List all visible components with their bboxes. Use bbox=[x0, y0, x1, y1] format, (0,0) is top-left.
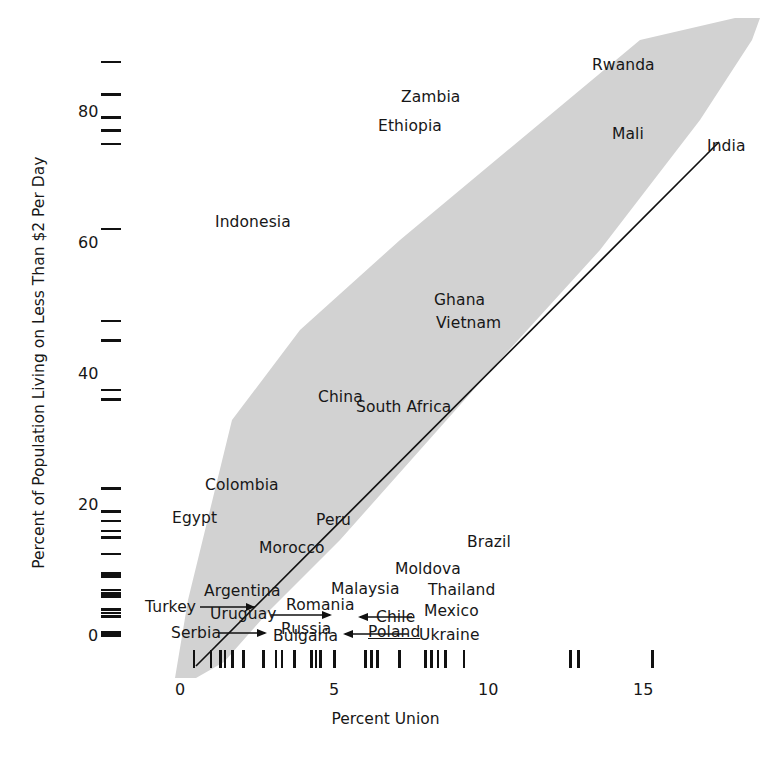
x-rug-tick bbox=[210, 650, 213, 668]
y-rug-tick bbox=[101, 93, 121, 96]
point-label-serbia: Serbia bbox=[171, 626, 221, 642]
x-rug-tick bbox=[231, 650, 234, 668]
y-rug-tick bbox=[101, 615, 121, 618]
x-rug-tick bbox=[315, 650, 318, 668]
y-axis-title: Percent of Population Living on Less Tha… bbox=[32, 123, 48, 603]
point-label-south-africa: South Africa bbox=[356, 400, 451, 416]
point-label-vietnam: Vietnam bbox=[436, 316, 501, 332]
y-rug-tick bbox=[101, 116, 121, 119]
x-rug-tick bbox=[219, 650, 222, 668]
point-label-argentina: Argentina bbox=[204, 584, 281, 600]
x-rug-tick bbox=[444, 650, 447, 668]
x-tick-label-5: 5 bbox=[329, 682, 339, 698]
y-tick-label-40: 40 bbox=[78, 366, 98, 382]
x-rug-tick bbox=[577, 650, 580, 668]
x-rug-tick bbox=[193, 650, 196, 668]
point-label-egypt: Egypt bbox=[172, 511, 217, 527]
point-label-zambia: Zambia bbox=[401, 90, 460, 106]
x-rug-tick bbox=[333, 650, 336, 668]
y-rug-tick bbox=[101, 520, 121, 523]
x-rug-tick bbox=[651, 650, 654, 668]
y-rug-tick bbox=[101, 608, 121, 611]
x-rug-tick bbox=[398, 650, 401, 668]
point-label-peru: Peru bbox=[316, 513, 351, 529]
point-label-moldova: Moldova bbox=[395, 562, 461, 578]
x-rug-tick bbox=[275, 650, 278, 668]
point-label-mali: Mali bbox=[612, 127, 644, 143]
x-rug-tick bbox=[242, 650, 245, 668]
x-rug-tick bbox=[463, 650, 466, 668]
x-rug-tick bbox=[293, 650, 296, 668]
plot-canvas bbox=[0, 0, 771, 758]
y-rug-tick bbox=[101, 228, 121, 231]
x-rug-tick bbox=[437, 650, 440, 668]
x-rug-tick bbox=[319, 650, 322, 668]
x-rug-tick bbox=[569, 650, 572, 668]
x-rug-tick bbox=[310, 650, 313, 668]
point-label-brazil: Brazil bbox=[467, 535, 511, 551]
y-tick-label-20: 20 bbox=[78, 497, 98, 513]
point-label-indonesia: Indonesia bbox=[215, 215, 291, 231]
y-rug-tick bbox=[101, 510, 121, 513]
point-label-colombia: Colombia bbox=[205, 478, 279, 494]
y-rug-tick bbox=[101, 589, 121, 592]
x-tick-label-15: 15 bbox=[633, 682, 653, 698]
y-rug-tick bbox=[101, 553, 121, 556]
y-rug-tick bbox=[101, 129, 121, 132]
x-rug-tick bbox=[370, 650, 373, 668]
y-tick-label-80: 80 bbox=[78, 104, 98, 120]
y-rug-tick bbox=[101, 592, 121, 595]
point-label-ghana: Ghana bbox=[434, 293, 485, 309]
x-rug-tick bbox=[281, 650, 284, 668]
point-label-ethiopia: Ethiopia bbox=[378, 119, 442, 135]
y-rug-tick bbox=[101, 536, 121, 539]
y-rug-tick bbox=[101, 575, 121, 578]
x-tick-label-10: 10 bbox=[478, 682, 498, 698]
x-rug-tick bbox=[262, 650, 265, 668]
x-rug-tick bbox=[224, 650, 227, 668]
y-tick-label-60: 60 bbox=[78, 235, 98, 251]
x-rug-tick bbox=[424, 650, 427, 668]
point-label-thailand: Thailand bbox=[428, 583, 495, 599]
x-axis-title: Percent Union bbox=[0, 712, 771, 728]
point-label-morocco: Morocco bbox=[259, 541, 325, 557]
x-rug-tick bbox=[430, 650, 433, 668]
y-rug-tick bbox=[101, 487, 121, 490]
x-tick-label-0: 0 bbox=[175, 682, 185, 698]
x-rug-tick bbox=[364, 650, 367, 668]
y-rug-tick bbox=[101, 595, 121, 598]
point-label-india: India bbox=[707, 139, 746, 155]
point-label-mexico: Mexico bbox=[424, 604, 479, 620]
scatter-plot-figure: Percent of Population Living on Less Tha… bbox=[0, 0, 771, 758]
confidence-band bbox=[175, 18, 760, 678]
x-rug-tick bbox=[376, 650, 379, 668]
y-rug-tick bbox=[101, 530, 121, 533]
y-rug-tick bbox=[101, 339, 121, 342]
point-label-turkey: Turkey bbox=[145, 600, 196, 616]
point-label-ukraine: Ukraine bbox=[419, 628, 480, 644]
point-label-uruguay: Uruguay bbox=[210, 607, 277, 623]
point-label-russia: Russia bbox=[281, 622, 331, 638]
y-rug-tick bbox=[101, 143, 121, 146]
y-rug-tick bbox=[101, 389, 121, 392]
y-rug-tick bbox=[101, 612, 121, 615]
point-label-romania: Romania bbox=[286, 598, 354, 614]
y-rug-tick bbox=[101, 320, 121, 323]
y-rug-tick bbox=[101, 398, 121, 401]
y-rug-tick bbox=[101, 635, 121, 638]
point-label-rwanda: Rwanda bbox=[592, 58, 655, 74]
y-rug-tick bbox=[101, 61, 121, 64]
point-label-poland: Poland bbox=[368, 625, 420, 641]
y-tick-label-0: 0 bbox=[88, 628, 98, 644]
